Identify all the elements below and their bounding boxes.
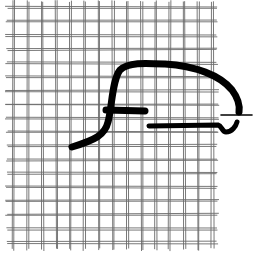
mesh-wire-horizontal: [5, 200, 219, 201]
mesh-wire-vertical: [43, 2, 44, 251]
mesh-wire-horizontal: [7, 213, 219, 214]
mesh-wire-vertical: [83, 1, 84, 251]
mesh-wire-horizontal: [5, 34, 216, 35]
lower-bar-stroke: [149, 122, 237, 132]
mesh-wire-horizontal: [6, 160, 218, 161]
cross-bar-stroke: [106, 110, 145, 111]
mesh-wire-horizontal: [5, 6, 217, 7]
mesh-wire-vertical: [112, 0, 113, 250]
mesh-wire-horizontal: [7, 174, 216, 175]
sketch-canvas: [0, 0, 255, 261]
mesh-wire-vertical: [27, 0, 28, 250]
mesh-wire-horizontal: [6, 187, 216, 188]
mesh-wire-vertical: [114, 1, 115, 250]
mesh-wire-vertical: [12, 0, 13, 249]
mesh-wire-vertical: [128, 1, 129, 248]
mesh-wire-vertical: [14, 0, 15, 251]
mesh-wire-vertical: [55, 0, 56, 248]
mesh-wire-vertical: [71, 1, 72, 251]
mesh-wire-horizontal: [8, 131, 218, 132]
